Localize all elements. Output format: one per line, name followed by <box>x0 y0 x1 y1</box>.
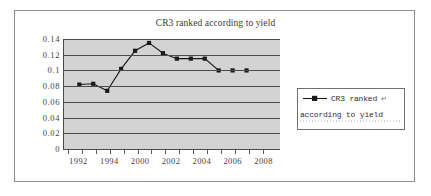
y-axis-tick-label: 0.02 <box>19 128 60 138</box>
chart-title: CR3 ranked according to yield <box>15 18 416 28</box>
data-point-marker <box>105 89 109 93</box>
gridline <box>64 118 280 119</box>
x-axis-tick <box>235 150 236 154</box>
x-axis-tick-label: 1994 <box>100 156 119 166</box>
x-axis-tick <box>249 150 250 154</box>
x-axis-tick <box>193 150 194 154</box>
legend-entry: CR3 ranked ↵ <box>302 94 387 103</box>
legend-artifact-mark-1: ↵ <box>381 95 387 103</box>
x-axis-tick-label: 2006 <box>223 156 242 166</box>
gridline <box>64 86 280 87</box>
chart-legend: CR3 ranked ↵ according to yield <box>297 88 405 130</box>
x-axis-tick-label: 2008 <box>254 156 273 166</box>
y-axis-tick-label: 0.04 <box>19 113 60 123</box>
chart-screenshot: CR3 ranked according to yield 0.140.120.… <box>0 0 431 196</box>
gridline <box>64 70 280 71</box>
x-axis-tick <box>96 150 97 154</box>
chart-frame: CR3 ranked according to yield 0.140.120.… <box>14 10 415 182</box>
data-point-marker <box>175 57 179 61</box>
x-axis-tick-label: 2000 <box>131 156 150 166</box>
x-axis-tick-label: 2004 <box>193 156 212 166</box>
plot-area <box>63 39 280 150</box>
x-axis-ticks <box>63 150 280 154</box>
gridline <box>64 102 280 103</box>
data-point-marker <box>133 49 137 53</box>
x-axis-tick <box>82 150 83 154</box>
x-axis-tick <box>151 150 152 154</box>
data-point-marker <box>147 41 151 45</box>
x-axis-tick <box>110 150 111 154</box>
legend-line-marker-icon <box>302 94 328 103</box>
x-axis-tick <box>263 150 264 154</box>
data-point-marker <box>189 57 193 61</box>
x-axis-tick-label: 2002 <box>162 156 181 166</box>
y-axis-tick-label: 0 <box>19 144 60 154</box>
y-axis-tick-label: 0.06 <box>19 97 60 107</box>
x-axis-labels: 1992199420002002200420062008 <box>15 156 416 172</box>
x-axis-tick <box>124 150 125 154</box>
x-axis-tick <box>207 150 208 154</box>
y-axis-labels: 0.140.120.10.080.060.040.020 <box>19 33 60 155</box>
x-axis-tick <box>221 150 222 154</box>
scan-artifact-underline <box>300 120 400 122</box>
gridline <box>64 39 280 40</box>
x-axis-tick <box>165 150 166 154</box>
data-point-marker <box>203 57 207 61</box>
y-axis-tick-label: 0.12 <box>19 50 60 60</box>
x-axis-tick-label: 1992 <box>69 156 88 166</box>
gridline <box>64 133 280 134</box>
gridline <box>64 55 280 56</box>
x-axis-tick <box>179 150 180 154</box>
legend-label-line-1: CR3 ranked <box>331 94 377 103</box>
legend-label-line-2: according to yield <box>300 110 383 119</box>
x-axis-tick <box>68 150 69 154</box>
y-axis-tick-label: 0.1 <box>19 65 60 75</box>
x-axis-tick <box>138 150 139 154</box>
y-axis-tick-label: 0.14 <box>19 34 60 44</box>
y-axis-tick-label: 0.08 <box>19 81 60 91</box>
series-polyline <box>79 43 246 91</box>
